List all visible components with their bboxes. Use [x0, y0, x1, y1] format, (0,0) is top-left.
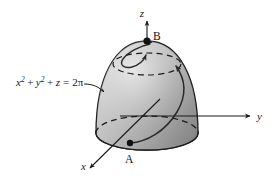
x-axis-label: x — [80, 160, 86, 172]
equation-rhs: 2π — [72, 76, 84, 88]
svg-text:x2+y2+z=2π: x2+y2+z=2π — [15, 75, 84, 88]
point-A-marker — [127, 140, 133, 146]
figure-container: z y x B A x2+y2+z=2π — [0, 0, 275, 182]
point-B-marker — [143, 37, 150, 44]
equation-term2-exponent: 2 — [41, 75, 45, 84]
equation-plus-1: + — [27, 76, 33, 88]
surface-equation-label: x2+y2+z=2π — [15, 75, 84, 88]
z-axis-label: z — [139, 7, 145, 19]
equation-term3-var: z — [55, 76, 61, 88]
equation-plus-2: + — [47, 76, 53, 88]
point-A-label: A — [125, 153, 134, 165]
equation-term1-exponent: 2 — [21, 75, 25, 84]
equation-equals: = — [63, 76, 69, 88]
point-B-label: B — [153, 30, 161, 42]
y-axis-label: y — [256, 110, 262, 122]
